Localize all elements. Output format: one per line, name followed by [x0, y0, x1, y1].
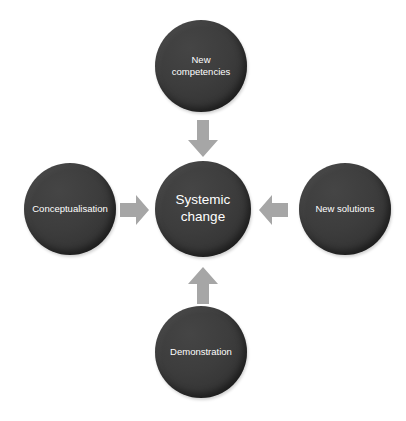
node-conceptualisation[interactable]: Conceptualisation: [24, 163, 116, 255]
node-new-competencies-label: New competencies: [166, 54, 237, 78]
node-systemic-change-label: Systemic change: [170, 192, 237, 226]
arrow-left-icon: [258, 194, 288, 226]
node-demonstration[interactable]: Demonstration: [155, 306, 247, 398]
node-demonstration-label: Demonstration: [164, 346, 238, 358]
arrow-down-icon: [187, 120, 219, 158]
arrow-right-icon: [120, 194, 150, 226]
node-conceptualisation-label: Conceptualisation: [26, 203, 114, 215]
node-systemic-change[interactable]: Systemic change: [155, 161, 251, 257]
node-new-competencies[interactable]: New competencies: [155, 20, 247, 112]
node-new-solutions[interactable]: New solutions: [299, 163, 391, 255]
node-new-solutions-label: New solutions: [309, 203, 380, 215]
arrow-up-icon: [187, 267, 219, 305]
diagram-canvas: New competencies Conceptualisation Syste…: [0, 0, 406, 421]
